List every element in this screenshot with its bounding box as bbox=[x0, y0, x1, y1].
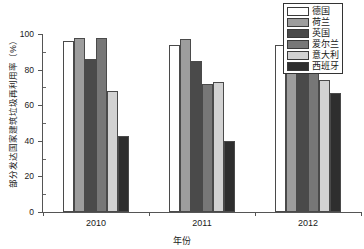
x-axis-title: 年份 bbox=[0, 234, 364, 247]
legend-item-英国: 英国 bbox=[287, 28, 339, 38]
x-tick-mark bbox=[255, 212, 256, 216]
legend-swatch-德国 bbox=[287, 7, 309, 16]
x-tick-label-2010: 2010 bbox=[86, 218, 106, 228]
bar-英国-2010 bbox=[85, 59, 96, 212]
bar-英国-2011 bbox=[191, 61, 202, 212]
bar-意大利-2010 bbox=[107, 91, 118, 212]
y-tick-minor-90 bbox=[43, 52, 46, 53]
x-tick-mark bbox=[149, 212, 150, 216]
legend-label: 荷兰 bbox=[312, 18, 330, 27]
legend-label: 爱尔兰 bbox=[312, 40, 339, 49]
y-axis-title: 部分发达国家建筑垃圾再利用率（%） bbox=[6, 14, 20, 210]
y-tick-minor-70 bbox=[43, 87, 46, 88]
x-tick-label-2012: 2012 bbox=[298, 218, 318, 228]
bar-德国-2011 bbox=[169, 45, 180, 212]
x-tick-mark bbox=[361, 212, 362, 216]
legend: 德国荷兰英国爱尔兰意大利西班牙 bbox=[283, 3, 343, 74]
y-tick-mark bbox=[38, 176, 43, 177]
legend-item-爱尔兰: 爱尔兰 bbox=[287, 39, 339, 49]
legend-item-德国: 德国 bbox=[287, 6, 339, 16]
x-tick-mark bbox=[43, 212, 44, 216]
legend-swatch-荷兰 bbox=[287, 18, 309, 27]
legend-item-荷兰: 荷兰 bbox=[287, 17, 339, 27]
legend-label: 德国 bbox=[312, 7, 330, 16]
legend-label: 西班牙 bbox=[312, 62, 339, 71]
bar-group-2010 bbox=[43, 34, 149, 212]
bar-西班牙-2011 bbox=[224, 141, 235, 212]
y-tick-mark bbox=[38, 34, 43, 35]
y-tick-minor-10 bbox=[43, 194, 46, 195]
bar-意大利-2012 bbox=[319, 80, 330, 212]
y-tick-mark bbox=[38, 105, 43, 106]
y-tick-label: 40 bbox=[25, 137, 34, 146]
bar-西班牙-2012 bbox=[330, 93, 341, 212]
bar-意大利-2011 bbox=[213, 82, 224, 212]
bar-爱尔兰-2010 bbox=[96, 38, 107, 212]
legend-item-意大利: 意大利 bbox=[287, 50, 339, 60]
y-axis-title-text: 部分发达国家建筑垃圾再利用率（%） bbox=[6, 14, 20, 210]
y-tick-label: 80 bbox=[25, 65, 34, 74]
bar-group-2011 bbox=[149, 34, 255, 212]
bar-荷兰-2011 bbox=[180, 39, 191, 212]
y-tick-label: 60 bbox=[25, 101, 34, 110]
bar-荷兰-2010 bbox=[74, 38, 85, 212]
y-tick-mark bbox=[38, 70, 43, 71]
bar-chart: 部分发达国家建筑垃圾再利用率（%） 020406080100 201020112… bbox=[0, 0, 364, 249]
bar-爱尔兰-2011 bbox=[202, 84, 213, 212]
bar-爱尔兰-2012 bbox=[308, 73, 319, 212]
bar-西班牙-2010 bbox=[118, 136, 129, 213]
legend-swatch-意大利 bbox=[287, 51, 309, 60]
legend-swatch-西班牙 bbox=[287, 62, 309, 71]
legend-swatch-爱尔兰 bbox=[287, 40, 309, 49]
legend-label: 意大利 bbox=[312, 51, 339, 60]
y-tick-label: 0 bbox=[29, 208, 34, 217]
y-tick-minor-50 bbox=[43, 123, 46, 124]
y-tick-label: 100 bbox=[20, 30, 34, 39]
legend-label: 英国 bbox=[312, 29, 330, 38]
legend-item-西班牙: 西班牙 bbox=[287, 61, 339, 71]
bar-英国-2012 bbox=[297, 59, 308, 212]
bar-德国-2010 bbox=[63, 41, 74, 212]
legend-swatch-英国 bbox=[287, 29, 309, 38]
y-tick-mark bbox=[38, 141, 43, 142]
x-tick-label-2011: 2011 bbox=[192, 218, 211, 228]
y-tick-minor-30 bbox=[43, 159, 46, 160]
y-tick-label: 20 bbox=[25, 172, 34, 181]
